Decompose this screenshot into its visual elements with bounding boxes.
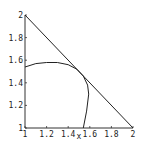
x-axis-label: x bbox=[77, 132, 82, 141]
y-tick-label: 1.8 bbox=[9, 34, 24, 43]
y-tick-label: 2 bbox=[18, 11, 23, 20]
x-tick-label: 1.8 bbox=[104, 130, 119, 139]
y-tick-label: 1.4 bbox=[9, 79, 24, 88]
chart: 11.21.41.61.8211.21.41.61.82x bbox=[0, 0, 143, 146]
x-tick-label: 1.4 bbox=[61, 130, 76, 139]
x-tick-label: 1 bbox=[23, 130, 28, 139]
x-tick-label: 1.2 bbox=[39, 130, 54, 139]
y-tick-label: 1.6 bbox=[9, 56, 24, 65]
series-arc bbox=[25, 63, 89, 129]
y-tick-label: 1 bbox=[18, 124, 23, 133]
x-tick-label: 1.6 bbox=[83, 130, 98, 139]
x-tick-label: 2 bbox=[131, 130, 136, 139]
y-tick-label: 1.2 bbox=[9, 101, 24, 110]
